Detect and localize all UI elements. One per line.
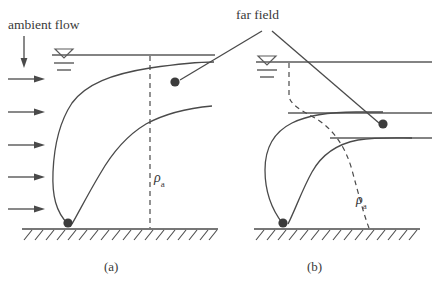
far-field-label: far field xyxy=(236,8,279,22)
arrow-right-icon xyxy=(8,141,45,148)
figure-container: ambient flow far field ρa ρa (a) (b) xyxy=(0,0,435,287)
density-label-panel-b: ρa xyxy=(356,192,367,210)
arrow-down-icon xyxy=(21,36,28,68)
rho-symbol-a: ρ xyxy=(154,170,161,185)
arrow-right-icon xyxy=(8,75,45,82)
figure-drawing xyxy=(0,0,435,287)
panel-a xyxy=(8,31,262,240)
ambient-flow-arrows xyxy=(8,75,45,212)
plume-inner-boundary-a xyxy=(72,106,212,224)
water-surface-symbol-a xyxy=(54,49,74,70)
water-surface-symbol-b xyxy=(257,56,277,77)
far-field-leader-line-b xyxy=(272,31,379,123)
far-field-point-marker-a xyxy=(170,77,179,86)
ground-hatching-a xyxy=(24,230,217,240)
panel-caption-a: (a) xyxy=(104,260,118,273)
source-point-marker-b xyxy=(278,218,287,227)
far-field-point-marker-b xyxy=(378,119,387,128)
panel-caption-b: (b) xyxy=(307,260,322,273)
rho-subscript-a: a xyxy=(161,179,165,189)
arrow-right-icon xyxy=(8,205,45,212)
density-label-panel-a: ρa xyxy=(154,170,165,188)
arrow-right-icon xyxy=(8,108,45,115)
rho-subscript-b: a xyxy=(363,201,367,211)
panel-b xyxy=(254,31,432,240)
ambient-flow-label: ambient flow xyxy=(8,18,80,32)
plume-inner-boundary-b xyxy=(288,138,412,224)
rho-symbol-b: ρ xyxy=(356,192,363,207)
ground-hatching-b xyxy=(256,230,417,240)
source-point-marker-a xyxy=(63,218,72,227)
arrow-right-icon xyxy=(8,173,45,180)
plume-outer-boundary-a xyxy=(53,62,214,224)
